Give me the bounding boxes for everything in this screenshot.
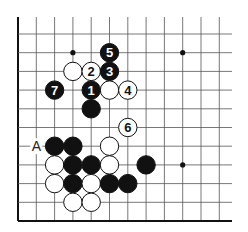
black-stone — [100, 174, 118, 192]
black-stone-icon — [64, 137, 82, 155]
board-markers: A — [30, 138, 42, 154]
move-number-label: 4 — [124, 83, 132, 98]
black-stone-icon — [119, 174, 137, 192]
white-stone — [45, 156, 63, 174]
white-stone: 2 — [82, 62, 100, 80]
black-stone: 7 — [45, 81, 63, 99]
star-point-icon — [180, 162, 185, 167]
white-stone-icon — [82, 174, 100, 192]
black-stone-icon — [100, 174, 118, 192]
black-stone — [64, 137, 82, 155]
black-stone-icon — [64, 156, 82, 174]
white-stone-icon — [45, 174, 63, 192]
white-stone: 6 — [119, 118, 137, 136]
white-stone — [82, 174, 100, 192]
point-marker-label: A — [32, 138, 42, 154]
white-stone — [100, 156, 118, 174]
white-stone-icon — [100, 81, 118, 99]
move-number-label: 5 — [106, 45, 113, 60]
black-stone — [45, 137, 63, 155]
move-number-label: 7 — [51, 83, 58, 98]
white-stone-icon — [82, 193, 100, 211]
star-point-icon — [180, 50, 185, 55]
black-stone: 1 — [82, 81, 100, 99]
black-stone — [137, 156, 155, 174]
black-stone-icon — [82, 100, 100, 118]
white-stone-icon — [45, 156, 63, 174]
star-point-icon — [70, 50, 75, 55]
white-stone-icon — [100, 137, 118, 155]
black-stone — [119, 174, 137, 192]
white-stone — [100, 137, 118, 155]
move-number-label: 1 — [88, 83, 95, 98]
black-stone — [64, 156, 82, 174]
move-number-label: 2 — [88, 64, 95, 79]
white-stone — [64, 193, 82, 211]
white-stone — [82, 193, 100, 211]
move-number-label: 3 — [106, 64, 113, 79]
black-stone — [82, 100, 100, 118]
white-stone — [45, 174, 63, 192]
go-board-diagram: A 5237146 — [0, 0, 248, 232]
black-stone-icon — [137, 156, 155, 174]
black-stone: 5 — [100, 44, 118, 62]
white-stone — [64, 62, 82, 80]
white-stone-icon — [64, 193, 82, 211]
black-stone-icon — [64, 174, 82, 192]
white-stone — [100, 81, 118, 99]
black-stone — [82, 156, 100, 174]
white-stone-icon — [100, 156, 118, 174]
white-stone-icon — [64, 62, 82, 80]
black-stone-icon — [45, 137, 63, 155]
white-stone: 4 — [119, 81, 137, 99]
black-stone-icon — [82, 156, 100, 174]
move-number-label: 6 — [124, 120, 131, 135]
black-stone: 3 — [100, 62, 118, 80]
black-stone — [64, 174, 82, 192]
